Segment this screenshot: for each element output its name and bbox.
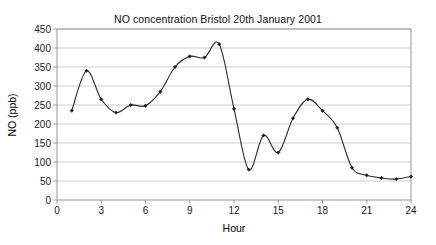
y-tick-label-200: 200	[34, 119, 51, 130]
chart-figure: NO concentration Bristol 20th January 20…	[0, 0, 436, 245]
data-point-marker	[114, 111, 117, 114]
y-tick-label-50: 50	[40, 176, 52, 187]
data-point-marker	[395, 177, 398, 180]
x-tick-label-24: 24	[405, 205, 417, 216]
data-point-marker	[188, 55, 191, 58]
x-tick-label-6: 6	[143, 205, 149, 216]
data-point-marker	[70, 109, 73, 112]
y-tick-label-100: 100	[34, 157, 51, 168]
x-tick-label-3: 3	[98, 205, 104, 216]
x-axis-title: Hour	[223, 222, 246, 234]
y-axis-ticks-group: 050100150200250300350400450	[34, 24, 57, 206]
series-markers-group	[70, 43, 413, 181]
x-tick-label-9: 9	[187, 205, 193, 216]
y-tick-label-450: 450	[34, 24, 51, 35]
data-point-marker	[409, 175, 412, 178]
plot-area-border	[57, 29, 411, 200]
x-tick-label-18: 18	[317, 205, 329, 216]
series-line-no-ppb	[72, 42, 411, 179]
line-chart-plot: 050100150200250300350400450 036912151821…	[0, 0, 436, 245]
y-tick-label-0: 0	[45, 195, 51, 206]
x-axis-ticks-group: 03691215182124	[54, 200, 417, 216]
y-tick-label-150: 150	[34, 138, 51, 149]
y-tick-label-400: 400	[34, 43, 51, 54]
y-tick-label-350: 350	[34, 62, 51, 73]
y-tick-label-250: 250	[34, 100, 51, 111]
data-point-marker	[232, 107, 235, 110]
data-point-marker	[380, 176, 383, 179]
gridlines-group	[57, 29, 411, 181]
y-tick-label-300: 300	[34, 81, 51, 92]
y-axis-title: NO (ppb)	[6, 93, 18, 136]
x-tick-label-15: 15	[273, 205, 285, 216]
data-point-marker	[306, 98, 309, 101]
x-tick-label-12: 12	[228, 205, 240, 216]
data-point-marker	[129, 103, 132, 106]
x-tick-label-0: 0	[54, 205, 60, 216]
data-point-marker	[365, 174, 368, 177]
x-tick-label-21: 21	[361, 205, 373, 216]
